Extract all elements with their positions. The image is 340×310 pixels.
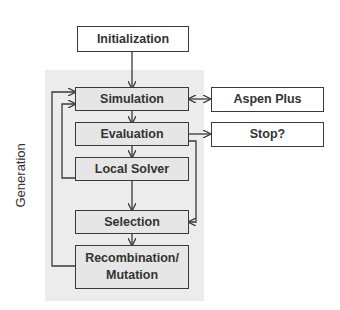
evaluation-label: Evaluation [100,126,163,143]
selection-label: Selection [104,214,160,231]
evaluation-node: Evaluation [75,122,189,146]
simulation-node: Simulation [75,87,189,111]
recombination-mutation-node: Recombination/ Mutation [75,245,189,289]
simulation-label: Simulation [100,91,164,108]
initialization-label: Initialization [97,31,169,48]
local-solver-node: Local Solver [75,157,189,181]
local-solver-label: Local Solver [95,161,169,178]
aspen-plus-label: Aspen Plus [233,91,301,108]
initialization-node: Initialization [77,26,189,52]
stop-label: Stop? [250,126,285,143]
recombination-mutation-label: Recombination/ Mutation [85,250,179,284]
aspen-plus-node: Aspen Plus [211,87,324,112]
stop-node: Stop? [211,122,324,147]
selection-node: Selection [75,210,189,234]
